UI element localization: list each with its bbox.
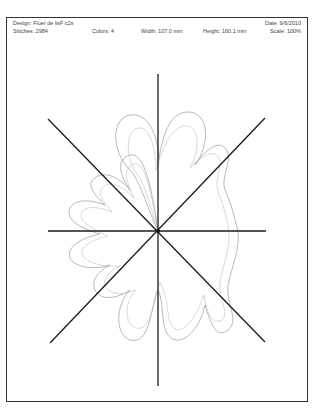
design-outer-outline bbox=[69, 112, 238, 340]
fleur-de-lis-design bbox=[69, 112, 238, 340]
embroidery-design-canvas bbox=[0, 0, 322, 409]
design-inner-outline bbox=[81, 126, 229, 330]
center-point-marker bbox=[156, 229, 160, 233]
